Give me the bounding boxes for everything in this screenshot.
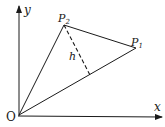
point-p1-label: P1 [130, 36, 143, 50]
point-p2-label: P2 [57, 12, 70, 26]
origin-label: O [6, 110, 16, 124]
x-axis [18, 116, 162, 117]
segment-p2-p1 [64, 25, 136, 48]
segment-o-p1 [19, 48, 136, 115]
x-axis-label: x [154, 100, 161, 114]
height-label: h [69, 50, 76, 63]
segment-o-p2 [19, 25, 64, 115]
triangle-diagram: y x O P2 P1 h [0, 0, 165, 127]
y-axis-label: y [23, 3, 31, 17]
